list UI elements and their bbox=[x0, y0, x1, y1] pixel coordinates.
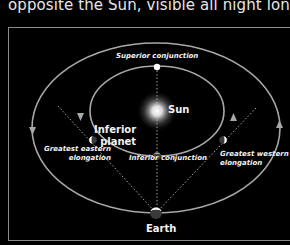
label-greatest-eastern-line1: Greatest eastern bbox=[44, 145, 111, 154]
inner-orbit-arrow-right-icon bbox=[230, 113, 237, 121]
inner-orbit-arrow-left-icon bbox=[77, 113, 84, 121]
label-inferior-conjunction: Inferior conjunction bbox=[129, 154, 207, 162]
label-inferior-planet-line1: Inferior bbox=[94, 124, 136, 136]
label-earth: Earth bbox=[146, 223, 176, 234]
label-greatest-western-line2: elongation bbox=[220, 159, 289, 168]
planet-superior-conjunction-icon bbox=[154, 64, 160, 70]
label-greatest-eastern-elongation: Greatest eastern elongation bbox=[44, 145, 111, 163]
planet-western-elongation-icon bbox=[219, 136, 227, 144]
label-sun: Sun bbox=[168, 104, 189, 115]
label-superior-conjunction: Superior conjunction bbox=[116, 52, 198, 60]
label-greatest-eastern-line2: elongation bbox=[44, 154, 111, 163]
orbit-diagram bbox=[0, 0, 290, 245]
label-greatest-western-line1: Greatest western bbox=[220, 150, 289, 159]
outer-orbit-arrow-left-icon bbox=[29, 127, 36, 135]
earth-icon bbox=[150, 207, 162, 219]
outer-orbit-arrow-right-icon bbox=[276, 120, 283, 128]
label-greatest-western-elongation: Greatest western elongation bbox=[220, 150, 289, 168]
